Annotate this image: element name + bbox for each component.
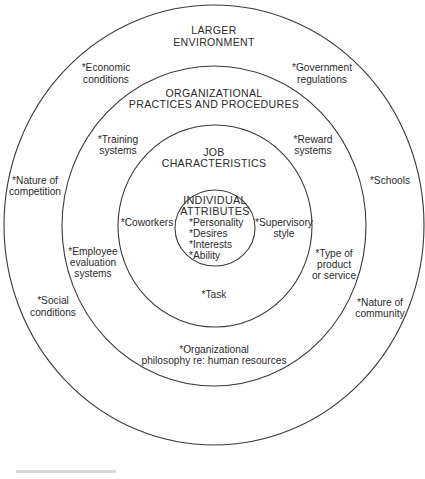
cropped-caption-remnant xyxy=(16,470,116,473)
factor-reward-systems: *Reward systems xyxy=(293,134,332,156)
title-line: ATTRIBUTES xyxy=(180,205,249,217)
factor-line: *Task xyxy=(202,289,228,300)
factor-line: competition xyxy=(9,186,61,197)
factor-training-systems: *Training systems xyxy=(98,134,139,156)
factor-line: *Training xyxy=(98,134,139,145)
factor-line: style xyxy=(274,228,295,239)
factor-nature-of-community: *Nature of community xyxy=(355,297,405,319)
title-line: ENVIRONMENT xyxy=(173,36,255,48)
factor-line: *Type of xyxy=(315,248,353,259)
factor-line: or service xyxy=(312,270,356,281)
factor-line: conditions xyxy=(83,74,129,85)
factor-line: *Coworkers xyxy=(121,217,174,228)
factor-line: *Reward xyxy=(293,134,332,145)
factor-line: systems xyxy=(99,145,136,156)
larger-environment-title: LARGER ENVIRONMENT xyxy=(173,24,255,48)
factor-line: *Social xyxy=(37,295,69,306)
individual-attributes-list: *Personality *Desires *Interests *Abilit… xyxy=(189,217,244,261)
factor-line: systems xyxy=(74,268,111,279)
individual-attributes-title: INDIVIDUAL ATTRIBUTES xyxy=(180,194,249,217)
factor-line: evaluation xyxy=(70,257,116,268)
factor-employee-evaluation-systems: *Employee evaluation systems xyxy=(68,246,118,279)
title-line: LARGER xyxy=(191,24,236,36)
factor-line: *Supervisory xyxy=(255,217,314,228)
factor-government-regulations: *Government regulations xyxy=(292,62,352,85)
factor-economic-conditions: *Economic conditions xyxy=(82,62,131,85)
factor-schools: *Schools xyxy=(370,175,410,186)
factor-organizational-philosophy: *Organizational philosophy re: human res… xyxy=(142,344,287,366)
factor-task: *Task xyxy=(202,289,228,300)
factor-line: *Employee xyxy=(68,246,118,257)
concentric-circles-diagram: LARGER ENVIRONMENT *Economic conditions … xyxy=(0,0,425,479)
factor-supervisory-style: *Supervisory style xyxy=(255,217,314,239)
attribute-interests: *Interests xyxy=(189,239,232,250)
factor-coworkers: *Coworkers xyxy=(121,217,174,228)
attribute-desires: *Desires xyxy=(189,228,228,239)
title-line: PRACTICES AND PROCEDURES xyxy=(129,98,299,110)
factor-line: *Organizational xyxy=(179,344,249,355)
factor-line: community xyxy=(355,308,405,319)
factor-type-of-product: *Type of product or service xyxy=(312,248,356,281)
job-characteristics-title: JOB CHARACTERISTICS xyxy=(162,146,267,169)
factor-line: product xyxy=(317,259,351,270)
factor-nature-of-competition: *Nature of competition xyxy=(9,175,61,197)
factor-line: philosophy re: human resources xyxy=(142,355,287,366)
factor-line: conditions xyxy=(30,307,76,318)
factor-line: systems xyxy=(294,145,331,156)
attribute-personality: *Personality xyxy=(189,217,244,228)
factor-social-conditions: *Social conditions xyxy=(30,295,76,318)
title-line: CHARACTERISTICS xyxy=(162,157,267,169)
organizational-practices-title: ORGANIZATIONAL PRACTICES AND PROCEDURES xyxy=(129,87,299,110)
factor-line: *Government xyxy=(292,62,352,73)
attribute-ability: *Ability xyxy=(189,250,221,261)
factor-line: *Nature of xyxy=(12,175,58,186)
factor-line: *Economic xyxy=(82,62,131,73)
factor-line: *Schools xyxy=(370,175,410,186)
factor-line: regulations xyxy=(297,74,347,85)
factor-line: *Nature of xyxy=(357,297,403,308)
